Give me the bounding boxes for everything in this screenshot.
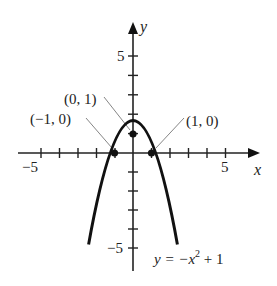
point-vertex — [129, 130, 136, 137]
x-axis-label: x — [253, 161, 261, 178]
equation-rest: + 1 — [200, 251, 223, 267]
y-axis-label: y — [138, 18, 148, 36]
annotation-right-root: (1, 0) — [186, 113, 219, 130]
leader-lines — [86, 97, 184, 148]
x-axis-arrow-icon — [248, 148, 260, 158]
plot-canvas: y x −5 5 5 −5 (0, 1) (−1, 0) (1, 0) y = … — [0, 0, 277, 286]
equation-base: y = −x — [152, 251, 195, 267]
equation-label: y = −x2 + 1 — [152, 248, 224, 267]
parabola-figure: y x −5 5 5 −5 (0, 1) (−1, 0) (1, 0) y = … — [0, 0, 277, 286]
point-left-root — [111, 149, 118, 156]
y-tick-label-neg5: −5 — [107, 240, 123, 256]
y-axis-arrow-icon — [128, 22, 138, 34]
x-tick-label-neg5: −5 — [22, 159, 38, 175]
annotation-vertex: (0, 1) — [64, 91, 97, 108]
point-right-root — [148, 149, 155, 156]
annotation-left-root: (−1, 0) — [30, 111, 71, 128]
x-tick-label-5: 5 — [221, 159, 229, 175]
y-tick-label-5: 5 — [117, 48, 125, 64]
